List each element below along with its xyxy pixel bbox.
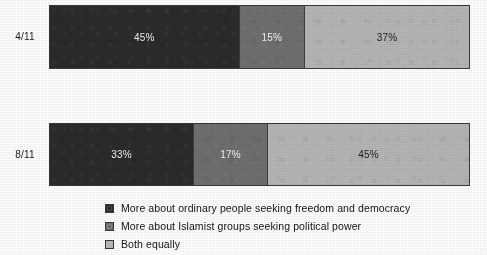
bar-row: 4/11 45% 15% 37% <box>0 5 487 69</box>
bar-segment-medium: 15% <box>239 6 304 68</box>
chart-legend: More about ordinary people seeking freed… <box>105 199 465 253</box>
bar-segment-value: 33% <box>111 149 132 160</box>
bar-row: 8/11 33% 17% 45% <box>0 123 487 186</box>
legend-item-label: Both equally <box>121 238 180 250</box>
stacked-bar-chart: 4/11 45% 15% 37% 8/11 33% 17% 45% <box>0 0 487 255</box>
bar-segment-value: 45% <box>134 32 155 43</box>
bar-segment-value: 15% <box>261 32 282 43</box>
legend-swatch-icon <box>105 240 114 249</box>
legend-item: More about Islamist groups seeking polit… <box>105 217 465 235</box>
bar-track: 33% 17% 45% <box>49 123 470 186</box>
legend-swatch-icon <box>105 222 114 231</box>
legend-item-label: More about ordinary people seeking freed… <box>121 202 410 214</box>
bar-segment-value: 17% <box>220 149 241 160</box>
bar-segment-dark: 33% <box>50 124 193 185</box>
bar-segment-light: 45% <box>267 124 469 185</box>
bar-row-label: 8/11 <box>6 149 44 160</box>
bar-row-label: 4/11 <box>6 31 44 42</box>
bar-segment-value: 45% <box>358 149 379 160</box>
bar-segment-dark: 45% <box>50 6 239 68</box>
bar-segment-value: 37% <box>377 32 398 43</box>
legend-swatch-icon <box>105 204 114 213</box>
legend-item-label: More about Islamist groups seeking polit… <box>121 220 361 232</box>
legend-item: More about ordinary people seeking freed… <box>105 199 465 217</box>
bar-segment-light: 37% <box>304 6 469 68</box>
bar-track: 45% 15% 37% <box>49 5 470 69</box>
legend-item: Both equally <box>105 235 465 253</box>
bar-segment-medium: 17% <box>193 124 267 185</box>
